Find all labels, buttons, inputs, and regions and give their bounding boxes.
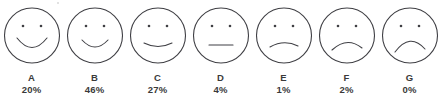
category-letter: G <box>378 72 441 84</box>
smiley-rating-scale: A20%B46%C27%D4%E1%F2%G0% <box>0 0 448 105</box>
mouth-slight-frown <box>270 43 298 47</box>
category-percent: 46% <box>63 84 126 96</box>
eye-right-icon <box>228 25 231 28</box>
mouth-slight-smile <box>144 43 172 47</box>
mouth-frown <box>332 42 362 50</box>
smiley-neutral-icon[interactable] <box>192 6 250 66</box>
eye-left-icon <box>147 25 150 28</box>
smiley-slightly-happy-icon[interactable] <box>129 6 187 66</box>
face-outline <box>130 8 185 63</box>
smiley-sad-icon[interactable] <box>318 6 376 66</box>
eye-right-icon <box>291 25 294 28</box>
smiley-happy-icon[interactable] <box>66 6 124 66</box>
smiley-slightly-sad-icon[interactable] <box>255 6 313 66</box>
category-letter: D <box>189 72 252 84</box>
rating-labels: G0% <box>378 72 441 96</box>
category-percent: 0% <box>378 84 441 96</box>
mouth-deep-frown <box>395 41 425 52</box>
smiley-very-sad-icon[interactable] <box>381 6 439 66</box>
category-letter: B <box>63 72 126 84</box>
face-outline <box>4 8 59 63</box>
category-percent: 20% <box>0 84 63 96</box>
category-percent: 2% <box>315 84 378 96</box>
category-letter: C <box>126 72 189 84</box>
rating-labels: D4% <box>189 72 252 96</box>
eye-left-icon <box>21 25 24 28</box>
eye-left-icon <box>336 25 339 28</box>
category-percent: 1% <box>252 84 315 96</box>
smiley-very-happy-icon[interactable] <box>3 6 61 66</box>
face-outline <box>382 8 437 63</box>
category-letter: F <box>315 72 378 84</box>
eye-right-icon <box>354 25 357 28</box>
eye-right-icon <box>165 25 168 28</box>
rating-labels: C27% <box>126 72 189 96</box>
eye-left-icon <box>399 25 402 28</box>
mouth-big-smile <box>17 38 47 48</box>
eye-right-icon <box>39 25 42 28</box>
face-outline <box>319 8 374 63</box>
rating-option-c[interactable]: C27% <box>126 0 189 105</box>
rating-option-b[interactable]: B46% <box>63 0 126 105</box>
mouth-smile <box>82 40 108 47</box>
rating-option-f[interactable]: F2% <box>315 0 378 105</box>
eye-right-icon <box>102 25 105 28</box>
rating-option-g[interactable]: G0% <box>378 0 441 105</box>
rating-labels: E1% <box>252 72 315 96</box>
eye-left-icon <box>273 25 276 28</box>
eye-right-icon <box>417 25 420 28</box>
rating-labels: B46% <box>63 72 126 96</box>
rating-labels: F2% <box>315 72 378 96</box>
rating-labels: A20% <box>0 72 63 96</box>
face-outline <box>256 8 311 63</box>
category-letter: A <box>0 72 63 84</box>
rating-option-a[interactable]: A20% <box>0 0 63 105</box>
rating-option-d[interactable]: D4% <box>189 0 252 105</box>
eye-left-icon <box>84 25 87 28</box>
face-outline <box>67 8 122 63</box>
category-letter: E <box>252 72 315 84</box>
category-percent: 4% <box>189 84 252 96</box>
eye-left-icon <box>210 25 213 28</box>
rating-option-e[interactable]: E1% <box>252 0 315 105</box>
category-percent: 27% <box>126 84 189 96</box>
face-outline <box>193 8 248 63</box>
